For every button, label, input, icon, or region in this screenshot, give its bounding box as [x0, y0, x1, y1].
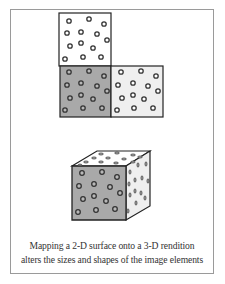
caption-line-2: alters the sizes and shapes of the image…	[10, 253, 214, 267]
caption-line-1: Mapping a 2-D surface onto a 3-D renditi…	[10, 239, 214, 253]
cube-3d	[72, 151, 150, 220]
figure-caption: Mapping a 2-D surface onto a 3-D renditi…	[10, 239, 214, 267]
flat-net-2d	[59, 13, 163, 117]
